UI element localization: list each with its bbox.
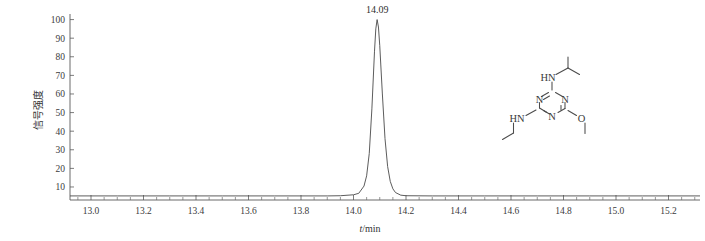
x-tick-label: 14.8 bbox=[555, 206, 572, 216]
chromatogram-figure: 信号强度 102030405060708090100 13.013.213.41… bbox=[0, 0, 705, 241]
y-axis-ticks: 102030405060708090100 bbox=[51, 15, 74, 192]
x-tick-label: 14.2 bbox=[398, 206, 415, 216]
bond-ring-double-1 bbox=[544, 96, 550, 100]
n-ring-left-label: N bbox=[536, 94, 544, 105]
y-tick-label: 10 bbox=[56, 182, 66, 192]
x-tick-label: 13.4 bbox=[188, 206, 205, 216]
y-tick-label: 60 bbox=[56, 89, 66, 99]
bond-c-to-hn-left bbox=[526, 110, 536, 116]
x-tick-label: 13.2 bbox=[135, 206, 152, 216]
x-tick-label: 15.0 bbox=[608, 206, 625, 216]
n-ring-right-label: N bbox=[561, 94, 569, 105]
y-tick-label: 50 bbox=[56, 108, 66, 118]
x-tick-label: 14.4 bbox=[450, 206, 467, 216]
x-tick-label: 13.6 bbox=[240, 206, 257, 216]
y-tick-label: 20 bbox=[56, 164, 66, 174]
bond-ethyl-ch2-ch3 bbox=[503, 133, 514, 140]
y-tick-label: 30 bbox=[56, 145, 66, 155]
y-axis-title: 信号强度 bbox=[32, 90, 44, 130]
o-methoxy-label: O bbox=[578, 113, 586, 124]
hn-top-label: HN bbox=[540, 72, 556, 83]
x-tick-label: 14.0 bbox=[345, 206, 362, 216]
y-tick-label: 70 bbox=[56, 71, 66, 81]
x-tick-label: 14.6 bbox=[503, 206, 520, 216]
x-tick-label: 13.0 bbox=[83, 206, 100, 216]
bond-c-to-o bbox=[568, 111, 577, 116]
x-tick-label: 13.8 bbox=[293, 206, 310, 216]
y-tick-label: 90 bbox=[56, 34, 66, 44]
x-axis-ticks: 13.013.213.413.613.814.014.214.414.614.8… bbox=[78, 195, 695, 216]
peak-label-14-09: 14.09 bbox=[366, 4, 389, 15]
y-tick-label: 80 bbox=[56, 52, 66, 62]
hn-left-label: HN bbox=[509, 113, 525, 124]
n-ring-bottom-label: N bbox=[548, 111, 556, 122]
x-axis-title: t/min bbox=[359, 223, 380, 234]
prometon-structure: N N N HN HN O bbox=[498, 38, 628, 153]
y-tick-label: 100 bbox=[51, 15, 66, 25]
y-tick-label: 40 bbox=[56, 127, 66, 137]
bond-isopropyl-methyl-right bbox=[568, 68, 580, 75]
bond-hn-to-isopropyl-ch bbox=[556, 68, 568, 75]
y-axis-title-text: 信号强度 bbox=[32, 90, 44, 130]
x-tick-label: 15.2 bbox=[660, 206, 677, 216]
